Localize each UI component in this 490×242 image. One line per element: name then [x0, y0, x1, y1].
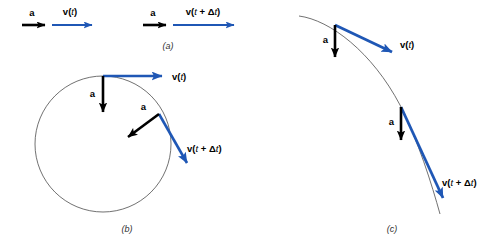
velocity-label-c1: v(t)	[400, 39, 414, 50]
acceleration-label-b1: a	[90, 88, 96, 99]
panel-c-vector-group-2: v(t + Δt) a	[389, 107, 477, 198]
figure-canvas: a v(t) a v(t + Δt) (a) v(t) a	[0, 0, 490, 242]
panel-caption-b: (b)	[122, 224, 133, 234]
trajectory-path	[299, 16, 440, 214]
panel-a-vector-group-2: a v(t + Δt)	[143, 6, 234, 25]
acceleration-label-c2: a	[389, 116, 395, 127]
acceleration-label-a2: a	[150, 7, 156, 18]
panel-b: v(t) a v(t + Δt) a (b)	[35, 71, 222, 234]
velocity-label-b2: v(t + Δt)	[187, 143, 222, 154]
velocity-arrow-b2	[159, 114, 187, 163]
acceleration-label-b2: a	[141, 101, 147, 112]
velocity-arrow-c1	[335, 25, 392, 52]
panel-a-vector-group-1: a v(t)	[22, 6, 92, 25]
acceleration-label-a1: a	[29, 7, 35, 18]
velocity-label-c2: v(t + Δt)	[442, 177, 477, 188]
panel-b-vector-group-1: v(t) a	[90, 71, 187, 112]
velocity-label-a2: v(t + Δt)	[186, 6, 221, 17]
acceleration-arrow-b2	[128, 114, 159, 137]
panel-caption-a: (a)	[163, 41, 174, 51]
panel-b-vector-group-2: v(t + Δt) a	[128, 101, 222, 163]
panel-c: v(t) a v(t + Δt) a (c)	[299, 16, 477, 234]
velocity-label-b1: v(t)	[172, 71, 186, 82]
velocity-arrow-c2	[401, 107, 443, 198]
physics-figure: a v(t) a v(t + Δt) (a) v(t) a	[0, 0, 490, 242]
panel-caption-c: (c)	[387, 224, 398, 234]
panel-c-vector-group-1: v(t) a	[323, 25, 415, 57]
panel-a: a v(t) a v(t + Δt) (a)	[22, 6, 234, 51]
velocity-label-a1: v(t)	[63, 6, 77, 17]
acceleration-label-c1: a	[323, 34, 329, 45]
